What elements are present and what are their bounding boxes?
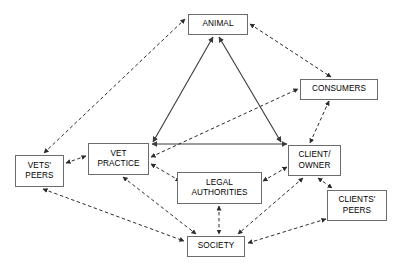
edge-consumers-client: [310, 101, 329, 143]
edge-animal-client: [219, 37, 281, 142]
node-client[interactable]: CLIENT/ OWNER: [288, 145, 341, 176]
edge-vet-animal: [153, 37, 213, 142]
edge-client-cpeers: [318, 178, 332, 188]
edge-animal-consumers: [250, 24, 331, 77]
node-label: VET PRACTICE: [97, 149, 139, 170]
edge-cpeers-society: [248, 219, 326, 243]
diagram-canvas: ANIMALCONSUMERSVET PRACTICECLIENT/ OWNER…: [0, 0, 402, 270]
node-label: SOCIETY: [198, 241, 235, 252]
node-vet[interactable]: VET PRACTICE: [88, 143, 149, 175]
edge-vetspeers-vet: [66, 156, 86, 163]
node-consumers[interactable]: CONSUMERS: [300, 79, 378, 100]
node-label: LEGAL AUTHORITIES: [191, 178, 247, 199]
node-animal[interactable]: ANIMAL: [188, 14, 248, 35]
edge-vet-legal: [151, 164, 180, 181]
edge-layer: [0, 0, 402, 270]
node-vetspeers[interactable]: VETS' PEERS: [15, 155, 64, 187]
edge-vetspeers-society: [43, 189, 184, 241]
node-label: VETS' PEERS: [25, 161, 53, 182]
node-label: CLIENTS' PEERS: [339, 195, 376, 216]
node-legal[interactable]: LEGAL AUTHORITIES: [177, 172, 262, 204]
node-label: CLIENT/ OWNER: [298, 150, 330, 171]
node-label: CONSUMERS: [312, 84, 366, 95]
node-cpeers[interactable]: CLIENTS' PEERS: [327, 190, 387, 221]
edge-vetspeers-animal: [44, 19, 185, 153]
edge-legal-client: [263, 167, 287, 181]
node-label: ANIMAL: [202, 19, 233, 30]
edge-vet-consumers: [151, 89, 298, 157]
node-society[interactable]: SOCIETY: [187, 236, 245, 257]
